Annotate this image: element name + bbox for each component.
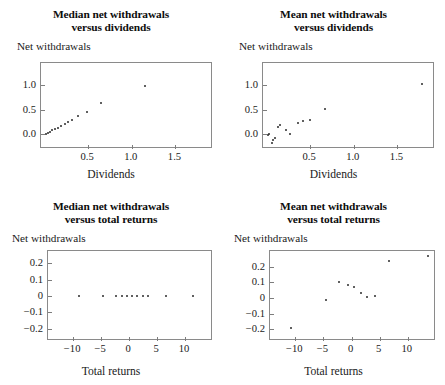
x-tick-label: 0.5 xyxy=(81,151,94,162)
y-axis-label: Net withdrawals xyxy=(12,232,86,244)
panel-mean-vs-dividends: Mean net withdrawals versus dividends Ne… xyxy=(222,0,445,192)
plot-area xyxy=(40,62,212,148)
y-tick-mark xyxy=(48,263,52,264)
panel-title: Median net withdrawals versus dividends xyxy=(0,8,222,34)
y-tick-label: 0.1 xyxy=(231,276,265,287)
data-point xyxy=(360,292,362,294)
panel-title-line-1: Median net withdrawals xyxy=(0,200,222,213)
data-point xyxy=(165,295,167,297)
x-tick-mark xyxy=(101,337,102,341)
panel-title-line-1: Median net withdrawals xyxy=(0,8,222,21)
data-point xyxy=(78,295,80,297)
x-tick-mark xyxy=(73,337,74,341)
data-point xyxy=(427,255,429,257)
y-tick-mark xyxy=(263,110,267,111)
x-tick-mark xyxy=(88,145,89,149)
y-tick-mark xyxy=(48,280,52,281)
x-tick-label: 10 xyxy=(179,343,190,354)
y-tick-label: −0.1 xyxy=(9,306,43,317)
x-tick-mark xyxy=(295,337,296,341)
data-point xyxy=(338,281,340,283)
data-point xyxy=(366,296,368,298)
data-point xyxy=(64,123,66,125)
y-tick-label: 0 xyxy=(231,291,265,302)
y-tick-mark xyxy=(270,314,274,315)
y-axis-label: Net withdrawals xyxy=(239,40,313,52)
y-tick-label: 1.0 xyxy=(2,79,36,90)
y-tick-mark xyxy=(41,110,45,111)
y-tick-label: 0.1 xyxy=(9,273,43,284)
panel-title: Median net withdrawals versus total retu… xyxy=(0,200,222,226)
x-axis-label: Dividends xyxy=(222,168,445,181)
data-point xyxy=(86,111,88,113)
panel-title-line-2: versus total returns xyxy=(222,213,445,226)
x-tick-mark xyxy=(323,337,324,341)
data-point xyxy=(77,115,79,117)
x-tick-label: 0 xyxy=(348,343,353,354)
data-point xyxy=(57,127,59,129)
data-point xyxy=(353,286,355,288)
plot-area xyxy=(47,250,212,340)
panel-median-vs-dividends: Median net withdrawals versus dividends … xyxy=(0,0,222,192)
data-point xyxy=(115,295,117,297)
y-tick-label: −0.1 xyxy=(231,307,265,318)
scatter-panel-grid: Median net withdrawals versus dividends … xyxy=(0,0,445,385)
data-point xyxy=(347,284,349,286)
data-point xyxy=(100,102,102,104)
data-point xyxy=(131,295,133,297)
panel-title-line-1: Mean net withdrawals xyxy=(222,8,445,21)
y-tick-mark xyxy=(270,298,274,299)
y-tick-label: 0 xyxy=(9,290,43,301)
data-point xyxy=(54,128,56,130)
x-tick-label: 0.5 xyxy=(303,151,316,162)
data-point xyxy=(421,83,423,85)
data-point xyxy=(271,142,273,144)
y-tick-mark xyxy=(263,134,267,135)
panel-mean-vs-total-returns: Mean net withdrawals versus total return… xyxy=(222,192,445,385)
plot-area xyxy=(269,250,435,340)
y-tick-label: −0.2 xyxy=(9,322,43,333)
panel-title-line-2: versus total returns xyxy=(0,213,222,226)
plot-area xyxy=(262,62,434,148)
data-point xyxy=(49,131,51,133)
y-tick-label: 0.2 xyxy=(9,257,43,268)
panel-title-line-1: Mean net withdrawals xyxy=(222,200,445,213)
x-tick-mark xyxy=(397,145,398,149)
x-tick-mark xyxy=(129,337,130,341)
data-point xyxy=(290,327,292,329)
data-point xyxy=(192,295,194,297)
x-tick-label: 1.5 xyxy=(390,151,403,162)
x-tick-label: 1.0 xyxy=(346,151,359,162)
x-tick-mark xyxy=(380,337,381,341)
y-tick-mark xyxy=(263,85,267,86)
y-tick-mark xyxy=(48,296,52,297)
x-axis-label: Total returns xyxy=(0,365,222,378)
data-point xyxy=(324,108,326,110)
data-point xyxy=(388,260,390,262)
y-tick-label: 0.5 xyxy=(2,103,36,114)
x-axis-label: Total returns xyxy=(222,365,445,378)
x-tick-label: −10 xyxy=(286,343,303,354)
data-point xyxy=(71,119,73,121)
data-point xyxy=(277,126,279,128)
x-tick-mark xyxy=(132,145,133,149)
data-point xyxy=(147,295,149,297)
data-point xyxy=(67,121,69,123)
x-tick-mark xyxy=(185,337,186,341)
data-point xyxy=(121,295,123,297)
y-tick-mark xyxy=(41,85,45,86)
x-tick-label: −5 xyxy=(94,343,105,354)
panel-median-vs-total-returns: Median net withdrawals versus total retu… xyxy=(0,192,222,385)
x-tick-mark xyxy=(175,145,176,149)
data-point xyxy=(309,119,311,121)
data-point xyxy=(126,295,128,297)
y-tick-mark xyxy=(270,267,274,268)
panel-title: Mean net withdrawals versus dividends xyxy=(222,8,445,34)
y-tick-mark xyxy=(48,329,52,330)
y-tick-mark xyxy=(48,312,52,313)
x-tick-mark xyxy=(310,145,311,149)
data-point xyxy=(279,124,281,126)
y-tick-mark xyxy=(270,329,274,330)
x-tick-label: 10 xyxy=(402,343,413,354)
panel-title-line-2: versus dividends xyxy=(222,21,445,34)
